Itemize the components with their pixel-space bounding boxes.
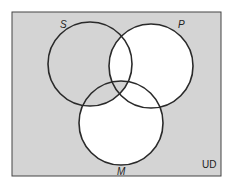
label-p: P [178, 19, 185, 30]
venn-diagram: S P M UD [0, 0, 233, 181]
label-m: M [117, 166, 126, 177]
label-universe: UD [202, 159, 216, 170]
label-s: S [60, 19, 67, 30]
